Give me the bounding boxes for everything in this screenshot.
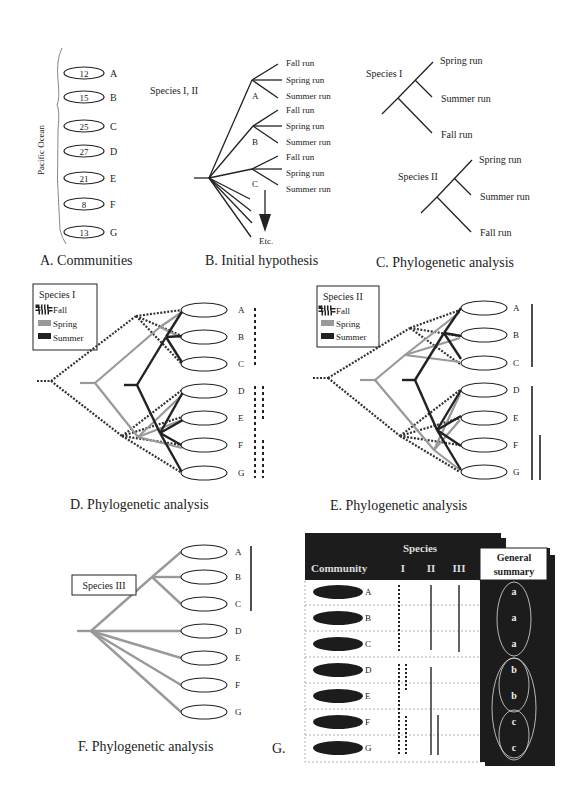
svg-text:Fall run: Fall run	[286, 105, 315, 115]
community-ellipse	[181, 678, 227, 692]
panel-b-caption: B. Initial hypothesis	[205, 253, 318, 268]
ocean-label: Pacific Ocean	[36, 124, 46, 175]
svg-text:E: E	[365, 691, 371, 701]
svg-text:II: II	[427, 562, 436, 574]
species-label: Species I, II	[150, 85, 198, 96]
community-ellipse	[181, 384, 227, 398]
svg-text:Fall run: Fall run	[441, 129, 472, 140]
svg-text:G: G	[235, 707, 242, 717]
svg-text:27: 27	[80, 147, 90, 157]
svg-text:Spring run: Spring run	[286, 75, 325, 85]
panel-d-species-i: Species I Fall Spring Summer	[33, 284, 263, 512]
svg-text:B: B	[513, 330, 519, 340]
svg-text:General: General	[497, 552, 532, 563]
svg-text:F: F	[235, 680, 240, 690]
svg-text:D: D	[365, 665, 372, 675]
species-i-label: Species I	[366, 68, 402, 79]
svg-text:A: A	[252, 91, 259, 101]
svg-text:15: 15	[80, 93, 90, 103]
svg-text:A: A	[238, 305, 245, 315]
community-ellipse	[181, 570, 227, 584]
panel-f-caption: F. Phylogenetic analysis	[78, 739, 213, 754]
community-ellipse	[181, 357, 227, 371]
species-label: Species III	[82, 580, 125, 591]
panel-c-phylogenetic: Species I Spring run Summer run Fall run…	[366, 55, 530, 270]
group-bars	[532, 304, 540, 480]
community-ellipse	[461, 465, 507, 479]
community-ellipse	[313, 585, 363, 599]
svg-text:C: C	[235, 599, 241, 609]
svg-text:a: a	[512, 638, 517, 649]
svg-text:G: G	[110, 227, 117, 238]
svg-text:Fall run: Fall run	[480, 227, 511, 238]
svg-text:B: B	[235, 572, 241, 582]
svg-text:A: A	[365, 587, 372, 597]
svg-text:E: E	[235, 653, 241, 663]
spring-swatch	[321, 320, 334, 326]
svg-text:Summer run: Summer run	[441, 93, 491, 104]
svg-text:13: 13	[80, 228, 90, 238]
svg-text:F: F	[238, 440, 243, 450]
community-ellipse	[313, 741, 363, 755]
community-ellipse	[313, 715, 363, 729]
panel-d-caption: D. Phylogenetic analysis	[70, 497, 209, 512]
community-f: 8 F	[64, 198, 116, 210]
svg-text:Species I: Species I	[39, 289, 75, 300]
figure-canvas: Pacific Ocean 12 A 15 B 25 C 27 D 21 E	[0, 0, 583, 792]
svg-text:C: C	[513, 358, 519, 368]
etc-label: Etc.	[259, 236, 273, 246]
legend: Species II Fall Spring Summer	[317, 286, 379, 347]
svg-text:Summer run: Summer run	[286, 91, 331, 101]
community-ellipse	[181, 624, 227, 638]
legend: Species I Fall Spring Summer	[33, 284, 97, 350]
svg-text:Fall: Fall	[53, 305, 68, 315]
community-ellipse	[181, 411, 227, 425]
panel-a-caption: A. Communities	[40, 253, 133, 268]
svg-text:c: c	[512, 716, 517, 727]
svg-text:Fall run: Fall run	[286, 152, 315, 162]
svg-text:D: D	[110, 146, 117, 157]
panel-c-caption: C. Phylogenetic analysis	[376, 255, 514, 270]
svg-text:b: b	[511, 690, 517, 701]
summer-swatch	[38, 333, 51, 339]
panel-g-table: G. Species Community I II III	[272, 533, 555, 766]
svg-text:III: III	[453, 562, 466, 574]
community-ellipse	[313, 689, 363, 703]
summer-swatch	[321, 333, 334, 339]
panel-e-species-ii: Species II Fall Spring Summer	[313, 286, 540, 513]
community-ellipse	[461, 301, 507, 315]
group-bars	[255, 308, 263, 478]
community-ellipse	[181, 466, 227, 480]
community-g: 13 G	[64, 226, 117, 238]
community-ellipse	[313, 663, 363, 677]
svg-text:Spring run: Spring run	[286, 121, 325, 131]
community-ellipse	[461, 438, 507, 452]
svg-text:D: D	[513, 385, 520, 395]
svg-text:Spring run: Spring run	[440, 55, 483, 66]
svg-text:A: A	[513, 303, 520, 313]
svg-text:Summer: Summer	[53, 333, 84, 343]
community-ellipse	[181, 330, 227, 344]
svg-text:21: 21	[80, 174, 89, 184]
svg-text:B: B	[252, 137, 258, 147]
community-a: 12 A	[64, 67, 118, 79]
community-ellipse	[313, 637, 363, 651]
svg-text:a: a	[512, 612, 517, 623]
community-ellipse	[181, 438, 227, 452]
svg-text:G: G	[365, 743, 372, 753]
community-d: 27 D	[64, 145, 117, 157]
svg-text:D: D	[235, 626, 242, 636]
svg-text:G: G	[513, 467, 520, 477]
svg-text:Spring run: Spring run	[286, 168, 325, 178]
svg-text:b: b	[511, 664, 517, 675]
svg-text:Spring: Spring	[336, 319, 361, 329]
svg-text:Summer run: Summer run	[480, 191, 530, 202]
panel-b-initial-hypothesis: Species I, II A B C Fall run Spring run	[150, 58, 331, 268]
community-b: 15 B	[64, 91, 117, 103]
community-ellipse	[181, 597, 227, 611]
community-ellipse	[461, 411, 507, 425]
svg-text:Fall run: Fall run	[286, 58, 315, 68]
community-ellipse	[181, 545, 227, 559]
svg-text:Spring run: Spring run	[479, 154, 522, 165]
svg-text:Spring: Spring	[53, 319, 78, 329]
